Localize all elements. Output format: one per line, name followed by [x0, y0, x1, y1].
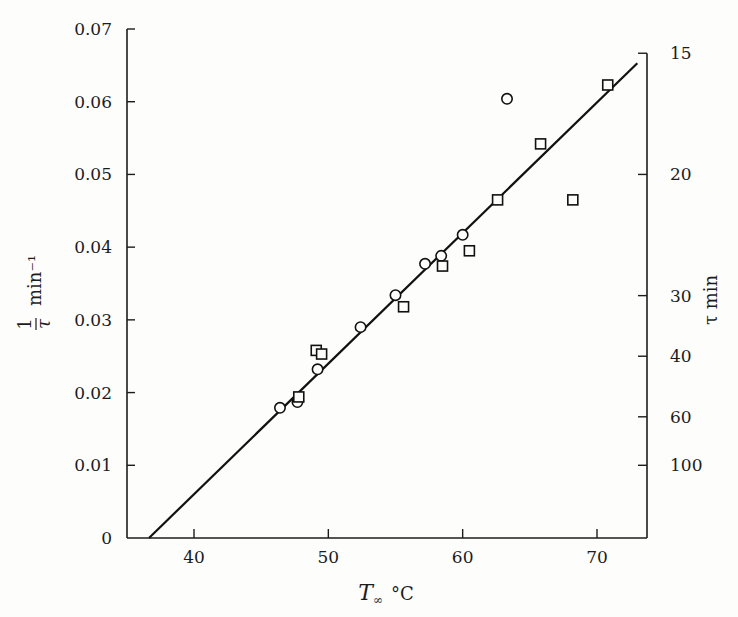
data-point-circle [420, 259, 430, 269]
data-point-circle [390, 290, 400, 300]
data-point-square [438, 261, 448, 271]
data-point-circle [502, 94, 512, 104]
x-tick-label: 60 [452, 547, 474, 567]
data-point-square [568, 195, 578, 205]
data-point-square [493, 195, 503, 205]
data-point-circle [457, 230, 467, 240]
chart: 00.010.020.030.040.050.060.0740506070152… [0, 0, 738, 617]
y2-tick-label: 15 [670, 43, 692, 63]
x-tick-label: 50 [318, 547, 340, 567]
data-point-square [536, 139, 546, 149]
y-tick-label: 0.04 [74, 237, 112, 257]
y-tick-label: 0.05 [74, 164, 112, 184]
x-tick-label: 40 [183, 547, 205, 567]
data-point-square [317, 349, 327, 359]
y2-tick-label: 40 [670, 346, 692, 366]
axes: 00.010.020.030.040.050.060.0740506070152… [74, 19, 702, 567]
data-point-circle [275, 403, 285, 413]
y-axis-title-denominator: τ [33, 318, 54, 329]
x-axis-title-unit: °C [391, 583, 414, 604]
y2-axis-title: τ min [700, 275, 721, 326]
y-axis-title: 1 τ min⁻¹ [14, 255, 54, 330]
y-tick-label: 0.06 [74, 92, 112, 112]
data-point-square [464, 246, 474, 256]
data-point-square [294, 392, 304, 402]
y2-tick-label: 100 [670, 455, 702, 475]
y2-tick-label: 60 [670, 407, 692, 427]
y-tick-label: 0.02 [74, 383, 112, 403]
y-axis-title-unit: min⁻¹ [24, 255, 45, 306]
y-tick-label: 0.01 [74, 455, 112, 475]
x-axis-title: T∞°C [358, 580, 413, 607]
data-point-circle [436, 251, 446, 261]
y-tick-label: 0 [101, 528, 112, 548]
y2-tick-label: 30 [670, 286, 692, 306]
data-points [275, 80, 613, 413]
data-point-square [603, 80, 613, 90]
y-tick-label: 0.07 [74, 19, 112, 39]
y-tick-label: 0.03 [74, 310, 112, 330]
data-point-circle [355, 322, 365, 332]
y-axis-title-numerator: 1 [14, 318, 35, 329]
y2-tick-label: 20 [670, 164, 692, 184]
data-point-square [399, 302, 409, 312]
data-point-circle [312, 364, 322, 374]
x-tick-label: 70 [586, 547, 608, 567]
x-axis-title-sub: ∞ [373, 593, 383, 607]
